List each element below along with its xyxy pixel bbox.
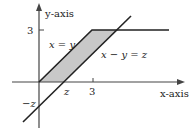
x-axis-label: x-axis	[160, 88, 189, 99]
x-axis-arrow-icon	[177, 79, 185, 85]
y-tick-3-label: 3	[27, 25, 33, 36]
label-x-equals-y: x = y	[49, 39, 75, 50]
y-axis-arrow-icon	[36, 3, 42, 11]
y-axis-label: y-axis	[44, 8, 74, 19]
x-tick-3-label: 3	[89, 86, 95, 97]
label-x-minus-y-equals-z: x − y = z	[101, 49, 148, 60]
y-tick-neg-z-label: −z	[22, 98, 36, 109]
x-tick-z-label: z	[63, 86, 70, 97]
diagram-canvas: y-axis x-axis 3 3 z −z x = y x − y = z	[0, 0, 195, 135]
